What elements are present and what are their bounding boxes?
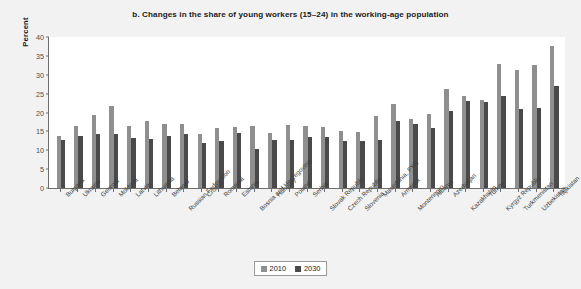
- bar-group: [123, 37, 141, 188]
- x-axis-category-label: Poland: [293, 193, 298, 198]
- x-axis-category-label: Bosnia and Herzegovina: [258, 207, 263, 212]
- bar-2030: [61, 140, 65, 188]
- x-tick-mark: [289, 189, 290, 192]
- x-tick-mark: [236, 189, 237, 192]
- legend-swatch-icon: [295, 266, 301, 272]
- x-axis-category-label: Belarus: [170, 193, 175, 198]
- y-tick-mark: [46, 169, 49, 170]
- x-axis-category-label: Slovenia: [363, 207, 368, 212]
- bar-group: [193, 37, 211, 188]
- y-tick-label: 30: [18, 70, 49, 79]
- bar-2030: [449, 111, 453, 188]
- chart-figure: b. Changes in the share of young workers…: [0, 0, 581, 289]
- x-tick-mark: [254, 189, 255, 192]
- bar-2030: [149, 139, 153, 188]
- y-tick-mark: [46, 74, 49, 75]
- x-tick-mark: [307, 189, 308, 192]
- bar-group: [352, 37, 370, 188]
- x-axis-category-label: Lithuania: [152, 193, 157, 198]
- x-tick-mark: [218, 189, 219, 192]
- bar-group: [510, 37, 528, 188]
- bar-group: [457, 37, 475, 188]
- bar-group: [158, 37, 176, 188]
- bar-2030: [484, 102, 488, 188]
- x-axis-category-label: Russian Federation: [187, 207, 192, 212]
- bar-group: [105, 37, 123, 188]
- legend-swatch-icon: [261, 266, 267, 272]
- bar-group: [281, 37, 299, 188]
- y-tick-mark: [46, 93, 49, 94]
- x-tick-mark: [148, 189, 149, 192]
- y-tick-mark: [46, 131, 49, 132]
- x-tick-mark: [448, 189, 449, 192]
- bar-group: [246, 37, 264, 188]
- bar-group: [334, 37, 352, 188]
- bar-group: [175, 37, 193, 188]
- bar-group: [264, 37, 282, 188]
- x-tick-mark: [395, 189, 396, 192]
- x-axis-labels: BulgariaUkraineGeorgiaMoldovaLatviaLithu…: [48, 193, 564, 255]
- x-axis-category-label: Montenegro: [416, 207, 421, 212]
- x-tick-mark: [166, 189, 167, 192]
- x-axis-category-label: Moldova: [117, 193, 122, 198]
- bar-group: [528, 37, 546, 188]
- legend-item[interactable]: 2010: [261, 264, 286, 273]
- x-axis-category-label: Turkmenistan: [522, 207, 527, 212]
- bar-group: [211, 37, 229, 188]
- x-axis-category-label: Slovak Republic: [328, 207, 333, 212]
- x-tick-mark: [412, 189, 413, 192]
- bar-2030: [343, 141, 347, 188]
- x-axis-category-label: Georgia: [99, 193, 104, 198]
- x-axis-category-label: Serbia: [311, 193, 316, 198]
- bar-2030: [554, 86, 558, 188]
- x-tick-mark: [113, 189, 114, 192]
- x-axis-category-label: Czech Republic: [346, 207, 351, 212]
- bar-2030: [202, 143, 206, 188]
- legend-label: 2030: [304, 264, 320, 273]
- bar-group: [369, 37, 387, 188]
- x-axis-category-label: Bulgaria: [64, 193, 69, 198]
- x-tick-mark: [465, 189, 466, 192]
- bar-group: [493, 37, 511, 188]
- y-tick-mark: [46, 55, 49, 56]
- y-tick-label: 0: [18, 184, 49, 193]
- x-axis-category-label: Latvia: [134, 193, 139, 198]
- x-axis-category-label: Kyrgyz Republic: [504, 207, 509, 212]
- bar-group: [316, 37, 334, 188]
- y-tick-label: 25: [18, 89, 49, 98]
- bar-group: [546, 37, 564, 188]
- bar-2030: [519, 109, 523, 188]
- x-axis-category-label: Ukraine: [81, 193, 86, 198]
- x-tick-mark: [60, 189, 61, 192]
- x-axis-category-label: Estonia: [240, 193, 245, 198]
- y-tick-mark: [46, 150, 49, 151]
- x-axis-category-label: Kazakhstan: [469, 207, 474, 212]
- bar-group: [475, 37, 493, 188]
- y-tick-label: 20: [18, 108, 49, 117]
- bar-group: [228, 37, 246, 188]
- y-tick-label: 40: [18, 33, 49, 42]
- x-axis-category-label: Uzbekistan: [540, 207, 545, 212]
- x-tick-mark: [500, 189, 501, 192]
- x-tick-mark: [130, 189, 131, 192]
- bar-group: [52, 37, 70, 188]
- bar-2030: [325, 137, 329, 188]
- legend-item[interactable]: 2030: [295, 264, 320, 273]
- x-axis-category-label: Romania: [222, 193, 227, 198]
- y-tick-label: 5: [18, 165, 49, 174]
- chart-title: b. Changes in the share of young workers…: [0, 10, 581, 19]
- bar-group: [387, 37, 405, 188]
- y-tick-label: 10: [18, 146, 49, 155]
- x-tick-mark: [77, 189, 78, 192]
- bar-group: [140, 37, 158, 188]
- y-tick-label: 35: [18, 51, 49, 60]
- bar-2030: [501, 96, 505, 188]
- x-axis-category-label: Armenia: [399, 193, 404, 198]
- bar-2030: [272, 140, 276, 188]
- bar-group: [87, 37, 105, 188]
- bar-group: [422, 37, 440, 188]
- bar-group: [440, 37, 458, 188]
- bar-group: [70, 37, 88, 188]
- y-tick-mark: [46, 112, 49, 113]
- legend-label: 2010: [270, 264, 286, 273]
